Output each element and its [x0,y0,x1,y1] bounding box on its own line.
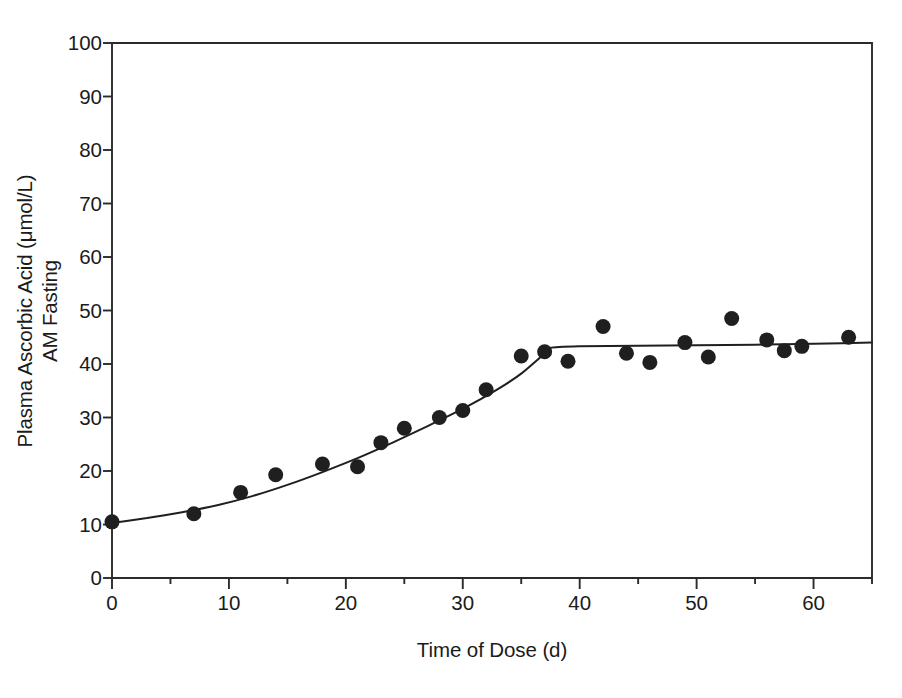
axis-frame [112,43,872,578]
data-point [397,421,412,436]
x-tick-label: 0 [106,591,117,615]
data-point [794,339,809,354]
y-axis-tick-marks [103,43,112,578]
x-tick-label: 10 [218,591,241,615]
data-point [724,311,739,326]
x-tick-label: 50 [685,591,708,615]
data-point [841,330,856,345]
data-point [268,467,283,482]
chart-figure: Plasma Ascorbic Acid (μmol/L) AM Fasting… [0,0,902,698]
x-tick-label: 20 [334,591,357,615]
data-point [186,506,201,521]
data-point [233,485,248,500]
data-point [642,355,657,370]
data-point [432,410,447,425]
data-point [105,514,120,529]
x-tick-label: 40 [568,591,591,615]
data-point [514,348,529,363]
data-point [315,457,330,472]
data-point [619,346,634,361]
data-point [561,354,576,369]
x-tick-label: 60 [802,591,825,615]
x-axis-tick-marks [112,578,814,589]
data-point [701,350,716,365]
data-point [350,459,365,474]
data-point [373,435,388,450]
data-point [596,319,611,334]
x-axis-label: Time of Dose (d) [112,638,872,662]
data-point [455,403,470,418]
data-point [677,335,692,350]
axis-box [112,43,872,578]
data-point [759,332,774,347]
data-point [479,382,494,397]
data-point [777,343,792,358]
fit-curve [112,343,872,523]
data-point [537,344,552,359]
x-tick-label: 30 [451,591,474,615]
data-point-group [105,311,857,529]
